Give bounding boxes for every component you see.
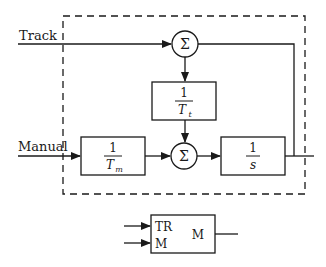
manual-input-label: Manual [18,139,68,154]
track-input-label: Track [19,28,57,43]
integrator-block: 1 s [221,137,285,175]
tracking-manual-block-diagram: Track Σ 1 T t Manual 1 T m Σ 1 [0,0,326,267]
svg-text:1: 1 [109,141,117,155]
sigma-icon: Σ [180,36,190,52]
manual-gain-block: 1 T m [81,137,145,175]
svg-text:1: 1 [249,141,257,155]
compact-block-symbol: TR M M [124,215,238,253]
m-output-label: M [192,228,204,242]
tracking-gain-block: 1 T t [152,82,216,120]
svg-text:T: T [178,103,187,117]
svg-text:s: s [250,158,256,172]
tr-port-label: TR [155,220,173,234]
top-summing-junction: Σ [172,31,198,57]
sigma-icon: Σ [179,148,189,164]
svg-text:m: m [115,165,123,174]
m-port-label: M [155,237,167,251]
svg-text:1: 1 [180,86,188,100]
svg-text:T: T [106,158,115,172]
bottom-summing-junction: Σ [171,143,197,169]
